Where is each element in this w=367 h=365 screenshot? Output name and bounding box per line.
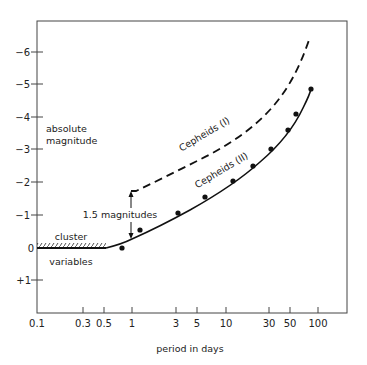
y-tick-label: −6 [15, 47, 30, 58]
y-tick-label: −4 [15, 112, 30, 123]
y-tick-label: +1 [16, 275, 31, 286]
data-point [202, 194, 207, 199]
y-axis-tick-labels: −6 −5 −4 −3 −2 −1 0 +1 [15, 47, 34, 286]
data-point [268, 146, 273, 151]
y-tick-label: −2 [15, 177, 30, 188]
x-axis-tick-labels: 0.1 0.3 0.5 1 3 5 10 30 50 100 [29, 318, 328, 329]
data-point [250, 163, 255, 168]
x-tick-label: 0.5 [96, 318, 112, 329]
x-tick-label: 30 [263, 318, 276, 329]
period-luminosity-chart: −6 −5 −4 −3 −2 −1 0 +1 0.1 0.3 0.5 1 3 5… [0, 0, 367, 365]
y-axis-label-line1: absolute [46, 123, 87, 134]
cluster-label: cluster [55, 231, 87, 242]
x-tick-label: 5 [194, 318, 200, 329]
data-point [285, 127, 290, 132]
cepheids-2-curve [106, 89, 311, 248]
y-tick-label: 0 [28, 243, 34, 254]
data-point [137, 227, 142, 232]
data-point [230, 178, 235, 183]
x-tick-label: 1 [129, 318, 135, 329]
y-tick-label: −5 [15, 79, 30, 90]
plot-frame [37, 21, 347, 313]
data-point [175, 210, 180, 215]
data-point [119, 245, 124, 250]
x-axis-ticks [83, 307, 318, 313]
x-axis-label: period in days [156, 343, 223, 354]
x-tick-label: 3 [173, 318, 179, 329]
x-tick-label: 0.3 [75, 318, 91, 329]
data-point [308, 86, 313, 91]
x-tick-label: 50 [284, 318, 297, 329]
variables-label: variables [49, 256, 92, 267]
cepheids-1-label: Cepheids (I) [177, 115, 232, 154]
magnitudes-label: 1.5 magnitudes [83, 209, 158, 220]
x-tick-label: 10 [220, 318, 233, 329]
y-axis-label-line2: magnitude [46, 135, 98, 146]
x-tick-label: 0.1 [29, 318, 45, 329]
y-tick-label: −3 [15, 144, 30, 155]
data-point [293, 111, 298, 116]
x-tick-label: 100 [308, 318, 327, 329]
cepheids-2-label: Cepheids (II) [193, 150, 250, 190]
y-tick-label: −1 [15, 210, 30, 221]
